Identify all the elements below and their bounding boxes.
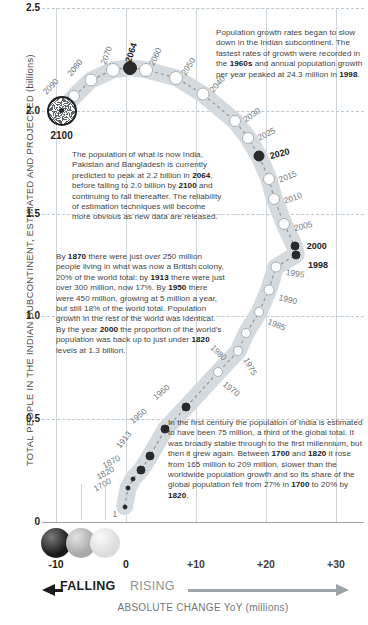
y-axis-tick-label: 0 [16, 516, 40, 527]
data-point-label: 1 [113, 509, 118, 519]
data-point[interactable] [292, 250, 301, 259]
data-point[interactable] [213, 367, 223, 377]
data-point[interactable] [145, 452, 154, 461]
data-point[interactable] [137, 465, 146, 474]
arrow-right-bar [188, 589, 338, 593]
data-point[interactable] [290, 242, 299, 251]
y-axis-tick-label: 2.5 [16, 2, 40, 13]
annotation-peak-projection: The population of what is now India, Pak… [72, 150, 222, 223]
x-axis-tick-label: +10 [187, 558, 205, 570]
falling-label: FALLING [60, 579, 116, 593]
data-point[interactable] [182, 402, 191, 411]
data-point-label: 2000 [307, 241, 327, 251]
x-axis-tick-label: +20 [257, 558, 275, 570]
data-point-label: 1998 [308, 260, 328, 270]
y-axis-title: TOTAL PEOPLE IN THE INDIAN SUBCONTINENT,… [25, 0, 35, 520]
data-point-2100-marker[interactable] [47, 96, 77, 126]
infographic-root: TOTAL PEOPLE IN THE INDIAN SUBCONTINENT,… [0, 0, 368, 625]
y-axis-tick-label: 0.5 [16, 413, 40, 424]
data-point[interactable] [85, 73, 98, 86]
y-axis-tick-label: 1.0 [16, 310, 40, 321]
annotation-historical-share: By 1870 there were just over 250 million… [56, 252, 226, 356]
y-axis-tick-label: 1.5 [16, 208, 40, 219]
legend-sphere [90, 528, 120, 558]
legend-sphere-stem [81, 484, 82, 520]
data-point[interactable] [122, 504, 127, 509]
data-point[interactable] [254, 151, 265, 162]
data-point[interactable] [131, 477, 136, 482]
legend-sphere-stem [105, 484, 106, 520]
x-axis-tick-label: +30 [327, 558, 345, 570]
data-point[interactable] [254, 307, 264, 317]
direction-arrow-row: FALLING RISING [42, 578, 364, 598]
x-axis-title: ABSOLUTE CHANGE YoY (millions) [42, 602, 364, 613]
rising-label: RISING [130, 579, 175, 593]
data-point[interactable] [241, 328, 251, 338]
data-point[interactable] [278, 218, 290, 230]
y-axis-tick-label: 2.0 [16, 105, 40, 116]
data-point[interactable] [229, 115, 241, 127]
arrow-right-icon [336, 584, 349, 596]
annotation-first-century: In the first century the population of I… [168, 418, 364, 501]
data-point[interactable] [126, 486, 131, 491]
x-axis-tick-label: -10 [48, 558, 63, 570]
legend-sphere-stem [56, 484, 57, 520]
data-point[interactable] [197, 88, 210, 101]
data-point-label-2100: 2100 [50, 130, 72, 141]
data-point[interactable] [242, 132, 254, 144]
data-point[interactable] [263, 284, 274, 295]
data-point[interactable] [233, 346, 243, 356]
x-axis-tick-label: 0 [123, 558, 129, 570]
data-point[interactable] [270, 262, 281, 273]
annotation-growth-rates: Population growth rates began to slow do… [216, 28, 366, 80]
x-axis-baseline [42, 522, 364, 523]
data-point[interactable] [106, 63, 120, 77]
data-point[interactable] [263, 173, 275, 185]
data-point[interactable] [268, 193, 280, 205]
